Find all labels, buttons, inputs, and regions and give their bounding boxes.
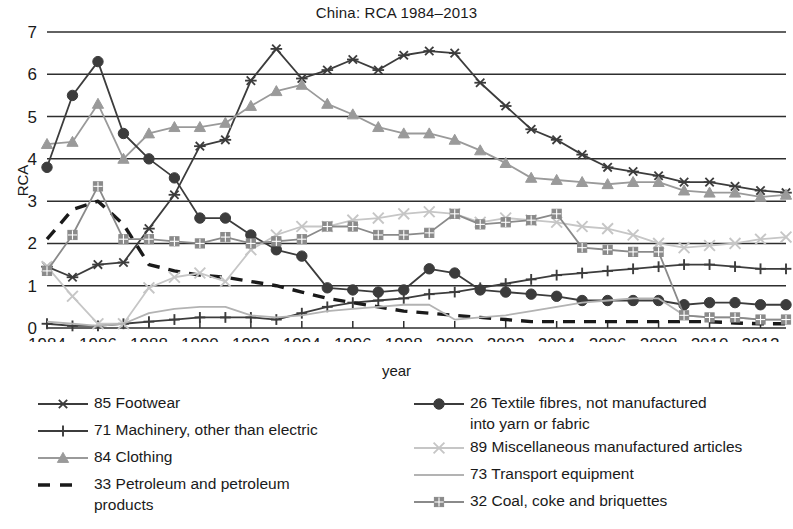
data-marker	[195, 213, 205, 223]
data-marker	[92, 98, 103, 108]
legend-item-33[interactable]: 33 Petroleum and petroleum products	[36, 473, 412, 515]
data-marker	[424, 264, 434, 274]
data-marker	[297, 251, 307, 261]
series-26	[42, 56, 791, 310]
legend-key-sample	[412, 437, 468, 458]
x-tick-label: 2002	[487, 335, 525, 342]
data-marker	[42, 162, 52, 172]
x-tick-label: 2004	[538, 335, 576, 342]
data-marker	[551, 291, 561, 301]
data-marker	[373, 287, 383, 297]
y-tick-label: 5	[28, 108, 37, 127]
y-tick-label: 6	[28, 65, 37, 84]
legend-marker-icon	[36, 420, 94, 441]
y-tick-label: 7	[28, 23, 37, 42]
x-tick-label: 1992	[232, 335, 270, 342]
data-marker	[475, 145, 486, 155]
data-marker	[526, 289, 536, 299]
legend-item-84[interactable]: 84 Clothing	[36, 446, 412, 471]
data-marker	[220, 117, 231, 127]
data-marker	[169, 173, 179, 183]
legend-item-89[interactable]: 89 Miscellaneous manufactured articles	[412, 436, 793, 461]
chart-svg: 0123456719841986198819901992199419961998…	[0, 22, 793, 342]
legend-key-sample	[412, 464, 468, 485]
data-marker	[347, 109, 358, 119]
x-tick-label: 1986	[79, 335, 117, 342]
x-tick-label: 2010	[691, 335, 729, 342]
legend-marker-icon	[412, 464, 470, 485]
legend-item-label: 32 Coal, coke and briquettes	[470, 490, 667, 511]
data-marker	[399, 285, 409, 295]
data-marker	[628, 295, 638, 305]
legend-key-sample	[36, 393, 92, 414]
legend-marker-icon	[412, 437, 470, 458]
legend-marker-icon	[36, 474, 94, 495]
data-marker	[526, 172, 537, 182]
legend-key-sample	[36, 474, 92, 495]
data-marker	[780, 189, 791, 199]
legend-item-label: 33 Petroleum and petroleum products	[94, 473, 290, 515]
x-tick-label: 2006	[589, 335, 627, 342]
legend-column-left: 85 Footwear71 Machinery, other than elec…	[36, 392, 412, 517]
data-marker	[348, 285, 358, 295]
legend-item-label: 71 Machinery, other than electric	[94, 419, 318, 440]
y-axis-label: RCA	[14, 151, 31, 211]
x-tick-label: 2008	[640, 335, 678, 342]
data-marker	[434, 399, 444, 409]
y-tick-label: 2	[28, 234, 37, 253]
data-marker	[245, 100, 256, 110]
data-marker	[577, 295, 587, 305]
x-tick-label: 2012	[742, 335, 780, 342]
x-tick-label: 1988	[130, 335, 168, 342]
data-marker	[93, 56, 103, 66]
data-marker	[755, 300, 765, 310]
data-marker	[730, 297, 740, 307]
series-89	[42, 206, 792, 329]
data-marker	[322, 283, 332, 293]
legend-item-73[interactable]: 73 Transport equipment	[412, 463, 793, 488]
x-tick-label: 1994	[283, 335, 321, 342]
legend-item-71[interactable]: 71 Machinery, other than electric	[36, 419, 412, 444]
data-marker	[781, 300, 791, 310]
data-marker	[373, 122, 384, 132]
data-marker	[67, 90, 77, 100]
data-marker	[67, 136, 78, 146]
legend-item-label: 73 Transport equipment	[470, 463, 634, 484]
data-marker	[296, 79, 307, 89]
data-marker	[144, 154, 154, 164]
data-marker	[118, 128, 128, 138]
legend-marker-icon	[412, 393, 470, 414]
series-line-32	[47, 186, 786, 319]
y-tick-label: 1	[28, 277, 37, 296]
x-tick-label: 1996	[334, 335, 372, 342]
legend-key-sample	[36, 447, 92, 468]
legend-item-32[interactable]: 32 Coal, coke and briquettes	[412, 490, 793, 515]
legend-key-sample	[36, 420, 92, 441]
series-32	[42, 182, 790, 324]
data-marker	[475, 285, 485, 295]
page-title: China: RCA 1984–2013	[0, 4, 793, 21]
x-tick-label: 1998	[385, 335, 423, 342]
data-marker	[220, 213, 230, 223]
x-tick-label: 1984	[28, 335, 66, 342]
x-tick-label: 2000	[436, 335, 474, 342]
data-marker	[450, 268, 460, 278]
legend-item-label: 84 Clothing	[94, 446, 172, 467]
x-axis-label: year	[0, 362, 793, 379]
legend-item-label: 26 Textile fibres, not manufactured into…	[470, 392, 707, 434]
data-marker	[704, 297, 714, 307]
data-marker	[322, 98, 333, 108]
legend-column-right: 26 Textile fibres, not manufactured into…	[412, 392, 793, 517]
legend-marker-icon	[36, 393, 94, 414]
legend-item-85[interactable]: 85 Footwear	[36, 392, 412, 417]
legend-marker-icon	[412, 491, 470, 512]
chart-plot-area: RCA 012345671984198619881990199219941996…	[0, 22, 793, 342]
x-tick-label: 1990	[181, 335, 219, 342]
legend-item-26[interactable]: 26 Textile fibres, not manufactured into…	[412, 392, 793, 434]
data-marker	[500, 287, 510, 297]
legend-key-sample	[412, 393, 468, 414]
legend-item-label: 85 Footwear	[94, 392, 180, 413]
legend-marker-icon	[36, 447, 94, 468]
legend-key-sample	[412, 491, 468, 512]
legend-item-label: 89 Miscellaneous manufactured articles	[470, 436, 742, 457]
